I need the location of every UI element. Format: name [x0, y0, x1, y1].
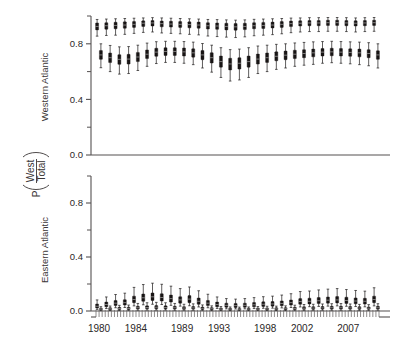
box-iqr — [142, 21, 145, 27]
boxplot-group — [234, 20, 237, 37]
panel-label-western-atlantic: Western Atlantic — [39, 53, 50, 122]
top-panel-boxplots — [96, 18, 380, 82]
boxplot-group — [216, 297, 219, 308]
boxplot-group — [367, 305, 370, 311]
boxplot-group — [164, 41, 167, 62]
boxplot-group — [114, 19, 117, 35]
boxplot-group — [133, 287, 136, 305]
boxplot-group — [114, 295, 117, 308]
boxplot-group — [284, 44, 287, 68]
y-tick-label: 0.8 — [70, 197, 83, 208]
boxplot-group — [293, 305, 296, 310]
y-tick-label: 0.0 — [70, 149, 83, 160]
boxplot-group — [330, 41, 333, 62]
boxplot-group — [109, 45, 112, 71]
boxplot-group — [330, 304, 333, 310]
boxplot-group — [262, 297, 265, 309]
boxplot-group — [173, 303, 176, 310]
boxplot-group — [266, 306, 269, 310]
boxplot-group — [349, 42, 352, 64]
boxplot-group — [376, 44, 379, 68]
y-tick-label: 0.8 — [70, 38, 83, 49]
boxplot-group — [293, 43, 296, 66]
y-axis-title-p: P — [31, 190, 42, 197]
boxplot-group — [363, 18, 366, 32]
boxplot-group — [123, 293, 126, 307]
boxplot-group — [373, 18, 376, 32]
boxplot-group — [219, 307, 222, 311]
boxplot-group — [206, 294, 209, 308]
boxplot-group — [183, 304, 186, 310]
boxplot-group — [271, 296, 274, 308]
figure-container: P West Total Western Atlantic 0.00.40.8 … — [0, 0, 414, 349]
x-axis-tick-labels: 1980198419891993199820022007 — [88, 323, 360, 334]
panel-eastern-atlantic: Eastern Atlantic 0.00.40.8 1980198419891… — [39, 176, 390, 334]
y-tick-label: 0.0 — [70, 305, 83, 316]
boxplot-group — [256, 307, 259, 311]
boxplot-group — [354, 18, 357, 32]
boxplot-group — [192, 42, 195, 65]
boxplot-group — [146, 43, 149, 66]
boxplot-group — [192, 304, 195, 310]
box-iqr — [160, 21, 163, 27]
box-iqr — [96, 304, 99, 308]
boxplot-group — [188, 19, 191, 35]
x-tick-label: 2007 — [337, 323, 360, 334]
box-iqr — [151, 20, 154, 26]
boxplot-group — [312, 42, 315, 65]
boxplot-group — [358, 42, 361, 65]
boxplot-group — [280, 19, 283, 34]
boxplot-group — [105, 297, 108, 309]
boxplot-group — [201, 305, 204, 310]
boxplot-group — [197, 291, 200, 307]
bottom-panel-y-tick-labels: 0.00.40.8 — [70, 197, 83, 316]
boxplot-group — [169, 286, 172, 305]
boxplot-group — [280, 295, 283, 308]
boxplot-group — [275, 306, 278, 310]
boxplot-group — [210, 306, 213, 311]
boxplot-group — [179, 289, 182, 307]
boxplot-group — [160, 18, 163, 33]
boxplot-group — [326, 289, 329, 306]
top-panel-y-tick-labels: 0.00.40.8 — [70, 38, 83, 160]
boxplot-group — [234, 299, 237, 309]
y-tick-label: 0.4 — [70, 251, 83, 262]
boxplot-group — [225, 20, 228, 37]
x-tick-label: 1984 — [125, 323, 148, 334]
boxplot-group — [173, 41, 176, 62]
x-axis — [91, 310, 390, 317]
boxplot-group — [308, 291, 311, 307]
boxplot-group — [188, 287, 191, 306]
boxplot-group — [317, 290, 320, 306]
y-tick-label: 0.4 — [70, 94, 83, 105]
boxplot-group — [354, 290, 357, 306]
boxplot-group — [308, 18, 311, 32]
boxplot-group — [253, 19, 256, 35]
boxplot-group — [155, 302, 158, 310]
top-panel-axes — [86, 16, 390, 155]
boxplot-group — [349, 304, 352, 310]
boxplot-group — [142, 18, 145, 32]
x-tick-label: 1993 — [208, 323, 231, 334]
bottom-panel-boxplots — [96, 283, 380, 310]
boxplot-group — [363, 291, 366, 307]
boxplot-group — [183, 42, 186, 64]
boxplot-group — [262, 19, 265, 35]
x-tick-label: 1989 — [171, 323, 194, 334]
boxplot-group — [312, 304, 315, 310]
panel-label-eastern-atlantic: Eastern Atlantic — [39, 217, 50, 283]
boxplot-group — [219, 48, 222, 78]
x-tick-label: 1980 — [88, 323, 111, 334]
boxplot-group — [151, 18, 154, 32]
boxplot-group — [317, 18, 320, 32]
boxplot-group — [160, 284, 163, 304]
boxplot-group — [336, 18, 339, 32]
boxplot-group — [339, 304, 342, 311]
boxplot-group — [201, 44, 204, 68]
boxplot-group — [151, 283, 154, 304]
boxplot-group — [299, 292, 302, 307]
boxplot-group — [256, 46, 259, 74]
boxplot-group — [99, 44, 102, 68]
bottom-panel-axes — [86, 176, 390, 311]
boxplot-group — [284, 306, 287, 311]
